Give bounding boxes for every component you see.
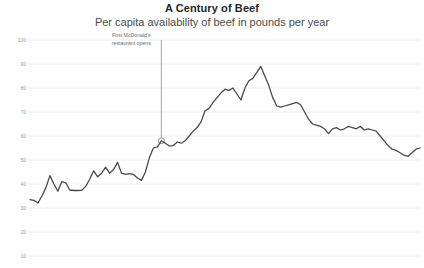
y-axis-tick-label: 10 xyxy=(20,253,26,259)
y-axis-tick-label: 50 xyxy=(20,157,26,163)
y-axis-tick-label: 90 xyxy=(20,61,26,67)
gridlines xyxy=(24,40,421,256)
chart-container: A Century of Beef Per capita availabilit… xyxy=(0,0,424,268)
y-axis-tick-labels: 102030405060708090100 xyxy=(18,37,27,259)
annotation-label-line2: restaurant opens xyxy=(112,40,151,46)
y-axis-tick-label: 70 xyxy=(20,109,26,115)
y-axis-tick-label: 100 xyxy=(18,37,27,43)
y-axis-tick-label: 20 xyxy=(20,229,26,235)
annotation-label-line1: First McDonald's xyxy=(112,32,151,38)
y-axis-tick-label: 80 xyxy=(20,85,26,91)
y-axis-tick-label: 40 xyxy=(20,181,26,187)
y-axis-tick-label: 30 xyxy=(20,205,26,211)
y-axis-tick-label: 60 xyxy=(20,133,26,139)
line-chart-plot: 102030405060708090100 First McDonald's r… xyxy=(0,0,424,268)
beef-availability-line xyxy=(30,66,420,203)
